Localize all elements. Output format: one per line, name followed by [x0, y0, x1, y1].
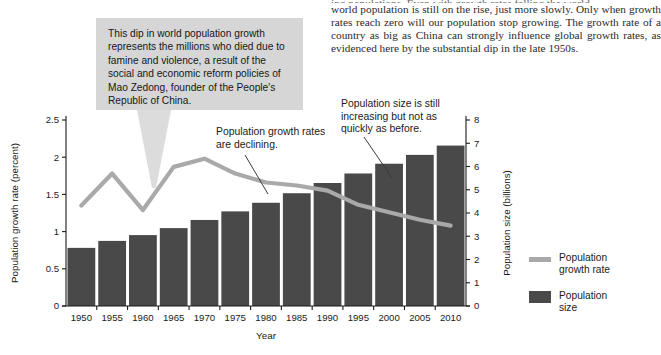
- y2-axis-title: Population size (billions): [501, 170, 512, 276]
- y2-tick-label: 6: [474, 161, 479, 172]
- bar: [191, 220, 219, 306]
- x-tick-label: 1990: [317, 312, 338, 323]
- x-tick-label: 1985: [286, 312, 307, 323]
- legend-growth-line1: Population: [559, 252, 610, 264]
- y2-tick-label: 4: [474, 207, 480, 218]
- y-tick-label: 2.5: [46, 114, 59, 125]
- legend-line-swatch-icon: [529, 257, 551, 262]
- y2-tick-label: 0: [474, 300, 479, 311]
- x-tick-label: 1965: [163, 312, 184, 323]
- legend-item-population-size-label: Population size: [559, 290, 607, 315]
- x-tick-label: 1975: [225, 312, 246, 323]
- x-tick-label: 1970: [194, 312, 215, 323]
- legend-item-growth-rate: Population growth rate: [529, 252, 654, 277]
- legend-item-population-size: Population size: [529, 290, 654, 315]
- callout-text: This dip in world population growth repr…: [108, 28, 285, 106]
- x-tick-label: 1960: [132, 312, 153, 323]
- x-axis-title: Year: [256, 330, 277, 341]
- body-paragraph: world population is still on the rise, j…: [331, 3, 661, 55]
- legend-bar-swatch-icon: [529, 291, 551, 303]
- y2-tick-label: 1: [474, 277, 479, 288]
- y2-tick-label: 2: [474, 254, 479, 265]
- y-tick-label: 1.5: [46, 189, 59, 200]
- y2-tick-label: 8: [474, 114, 479, 125]
- x-tick-label: 1950: [71, 312, 92, 323]
- x-tick-label: 2010: [440, 312, 461, 323]
- chart-legend: Population growth rate Population size: [529, 252, 654, 328]
- y2-tick-label: 3: [474, 231, 479, 242]
- bar: [375, 164, 403, 306]
- y-tick-label: 2: [54, 152, 59, 163]
- bar: [283, 193, 311, 306]
- y-axis-title: Population growth rate (percent): [9, 143, 20, 283]
- bar: [252, 203, 280, 306]
- y-tick-label: 0.5: [46, 263, 59, 274]
- x-tick-label: 1955: [101, 312, 122, 323]
- bar-series: [68, 146, 465, 306]
- bar: [406, 155, 434, 306]
- x-tick-label: 2000: [378, 312, 399, 323]
- y-tick-label: 0: [54, 300, 59, 311]
- legend-size-line1: Population: [559, 290, 607, 302]
- population-chart: 00.511.522.50123456781950195519601965197…: [0, 110, 530, 355]
- bar: [221, 211, 249, 306]
- x-tick-label: 2005: [409, 312, 430, 323]
- legend-growth-line2: growth rate: [559, 264, 610, 276]
- legend-item-growth-rate-label: Population growth rate: [559, 252, 610, 277]
- x-tick-label: 1995: [348, 312, 369, 323]
- article-body-text: ing populations. Even with growth rates …: [331, 0, 661, 55]
- callout-box: This dip in world population growth repr…: [96, 18, 303, 110]
- y-tick-label: 1: [54, 226, 59, 237]
- y2-tick-label: 7: [474, 138, 479, 149]
- legend-size-line2: size: [559, 302, 607, 314]
- x-tick-label: 1980: [255, 312, 276, 323]
- bar: [344, 173, 372, 306]
- bar: [68, 248, 96, 306]
- bar: [160, 228, 188, 306]
- bar: [129, 235, 157, 306]
- y2-tick-label: 5: [474, 184, 479, 195]
- bar: [314, 183, 342, 306]
- bar: [98, 241, 126, 306]
